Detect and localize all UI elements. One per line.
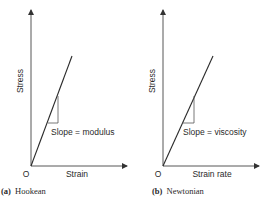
panel-newtonian: Stress Strain rate O Slope = viscosity (… (147, 10, 259, 196)
caption-letter: (a) (1, 186, 11, 196)
caption-text: Newtonian (167, 186, 205, 196)
y-axis-label: Stress (15, 69, 25, 93)
stress-strain-line (31, 56, 72, 166)
diagram-canvas: Stress Strain O Slope = modulus (a) Hook… (0, 0, 272, 208)
caption: (a) Hookean (1, 186, 46, 196)
y-axis-label: Stress (147, 69, 157, 93)
x-axis-label: Strain rate (192, 169, 231, 179)
caption: (b) Newtonian (152, 186, 205, 196)
stress-strain-rate-line (163, 56, 213, 166)
caption-letter: (b) (152, 186, 163, 196)
slope-triangle (48, 96, 58, 123)
slope-label: Slope = viscosity (183, 127, 247, 137)
panel-hookean: Stress Strain O Slope = modulus (a) Hook… (1, 10, 127, 196)
origin-label: O (155, 169, 162, 179)
caption-text: Hookean (15, 186, 46, 196)
slope-label: Slope = modulus (51, 127, 115, 137)
origin-label: O (23, 169, 30, 179)
x-axis-label: Strain (66, 169, 88, 179)
